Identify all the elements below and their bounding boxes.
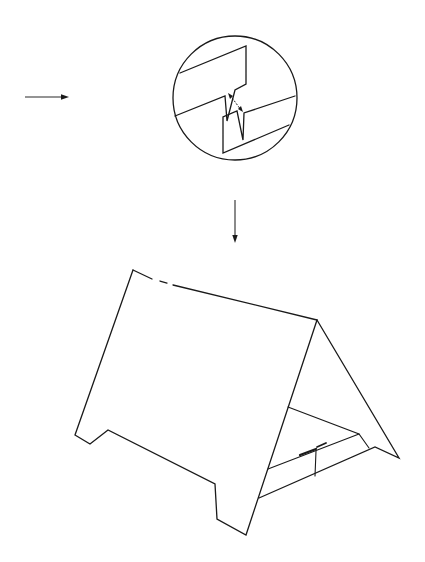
slot-detail-inset [173,36,297,160]
tent-stand [75,270,399,535]
upper-slot-tab [175,46,246,121]
front-panel [173,285,317,320]
right-arrow-icon [25,94,69,99]
rear-panel [259,320,399,498]
front-panel-left-edge [75,270,317,535]
inner-base-flap [288,407,369,448]
diagram-canvas [0,0,425,562]
down-arrow-icon [232,200,237,243]
assembly-diagram [0,0,425,562]
interlock-slot [315,451,316,476]
lower-slot-tab [223,96,295,153]
